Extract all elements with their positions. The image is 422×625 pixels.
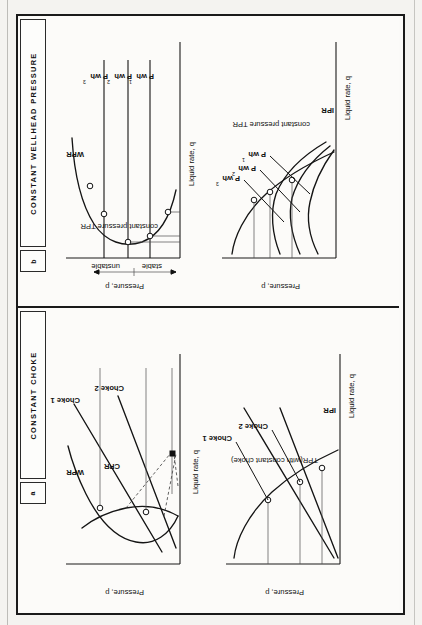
svg-text:3: 3 bbox=[83, 79, 86, 85]
svg-text:P wh: P wh bbox=[248, 150, 266, 159]
label-cpr: CPR bbox=[103, 462, 120, 471]
leader-choke2 bbox=[272, 430, 300, 482]
chart-a-bottom-xlabel: Liquid rate, q bbox=[347, 374, 356, 418]
page-edge-left bbox=[7, 0, 8, 625]
wpr-curve bbox=[68, 446, 178, 543]
dashed-projection-2 bbox=[164, 454, 176, 516]
label-unstable: unstable bbox=[91, 262, 120, 271]
svg-text:P wh: P wh bbox=[90, 72, 108, 81]
panel-a-letter-box: a bbox=[20, 482, 46, 504]
chart-a-bottom-svg: Pressure, p Liquid rate, q Choke 1 Choke… bbox=[218, 324, 394, 604]
label-tpr-constant-choke: TPR(with constant choke) bbox=[231, 456, 318, 465]
chart-b-bottom-svg: Pressure, p Liquid rate, q constant pres… bbox=[214, 30, 390, 298]
scanned-page: CONSTANT WELLHEAD PRESSURE b bbox=[0, 0, 422, 625]
figure-frame: CONSTANT WELLHEAD PRESSURE b bbox=[16, 14, 405, 615]
operating-point-pwh2-low bbox=[147, 233, 153, 239]
chart-a-bottom: Pressure, p Liquid rate, q Choke 1 Choke… bbox=[218, 324, 394, 604]
chart-b-bottom-xlabel: Liquid rate, q bbox=[343, 76, 352, 120]
dashed-projection-3 bbox=[174, 454, 178, 486]
bracket-arrow-lower bbox=[171, 270, 176, 274]
chart-a-top-ylabel: Pressure, p bbox=[105, 588, 144, 597]
chart-b-top-xlabel: Liquid rate, q bbox=[187, 142, 196, 186]
label-ipr: IPR bbox=[323, 406, 336, 415]
panel-a-title: CONSTANT CHOKE bbox=[29, 351, 38, 439]
operating-point-pwh1 bbox=[289, 177, 295, 183]
label-choke1: Choke 1 bbox=[50, 396, 80, 405]
label-choke2: Choke 2 bbox=[238, 422, 268, 431]
label-choke1: Choke 1 bbox=[202, 434, 232, 443]
operating-point-pwh1-high bbox=[87, 183, 93, 189]
panel-b-letter: b bbox=[30, 259, 37, 263]
panel-constant-wellhead-pressure: CONSTANT WELLHEAD PRESSURE b bbox=[18, 16, 399, 308]
chart-b-bottom: Pressure, p Liquid rate, q constant pres… bbox=[214, 30, 390, 298]
svg-text:P wh: P wh bbox=[136, 72, 154, 81]
operating-point-choke1 bbox=[97, 505, 103, 511]
svg-text:P wh: P wh bbox=[222, 174, 240, 183]
panel-b-title: CONSTANT WELLHEAD PRESSURE bbox=[29, 52, 38, 214]
chart-a-bottom-ylabel: Pressure, p bbox=[265, 588, 304, 597]
panel-a-header: CONSTANT CHOKE bbox=[20, 311, 46, 479]
leader-pwh1 bbox=[270, 156, 310, 194]
label-pwh2: P wh 2 bbox=[232, 164, 256, 177]
chart-b-top: Pressure, p Liquid rate, q stable unstab… bbox=[58, 30, 208, 298]
panel-a-letter: a bbox=[30, 491, 37, 495]
svg-text:2: 2 bbox=[232, 171, 235, 177]
dashed-projection-1 bbox=[126, 454, 170, 508]
label-choke2: Choke 2 bbox=[94, 384, 124, 393]
chart-a-top-xlabel: Liquid rate, q bbox=[191, 450, 200, 494]
cpr-line-choke2 bbox=[118, 396, 176, 548]
label-stable: stable bbox=[142, 262, 162, 271]
projection-marker bbox=[170, 451, 175, 456]
tpr-curve-pwh3 bbox=[273, 142, 326, 254]
svg-text:3: 3 bbox=[216, 181, 219, 187]
label-pwh1: P wh 1 bbox=[242, 150, 266, 163]
operating-point-pwh3 bbox=[251, 197, 257, 203]
operating-point-pwh3 bbox=[125, 239, 131, 245]
label-ipr: IPR bbox=[321, 106, 334, 115]
label-constant-pressure-tpr: constant pressure TPR bbox=[80, 222, 158, 231]
chart-a-top-xlabel-holder: Liquid rate, q bbox=[186, 404, 206, 604]
svg-text:P wh: P wh bbox=[238, 164, 256, 173]
operating-point-choke2 bbox=[143, 509, 149, 515]
tpr-curve-pwh1 bbox=[308, 150, 334, 254]
operating-point-pwh2 bbox=[267, 189, 273, 195]
label-constant-pressure-tpr: constant pressure TPR bbox=[232, 120, 310, 129]
label-wpr: WPR bbox=[66, 150, 84, 159]
chart-b-top-svg: Pressure, p Liquid rate, q stable unstab… bbox=[58, 30, 208, 298]
label-pwh3: P wh 3 bbox=[216, 174, 240, 187]
operating-point-pwh2-high bbox=[101, 211, 107, 217]
chart-b-top-ylabel: Pressure, p bbox=[105, 282, 144, 291]
panel-b-letter-box: b bbox=[20, 250, 46, 272]
chart-b-bottom-ylabel: Pressure, p bbox=[261, 282, 300, 291]
operating-point-extra bbox=[319, 465, 325, 471]
leader-choke1 bbox=[236, 442, 268, 500]
label-wpr: WPR bbox=[66, 468, 84, 477]
svg-text:1: 1 bbox=[242, 157, 245, 163]
panel-b-header: CONSTANT WELLHEAD PRESSURE bbox=[20, 19, 46, 247]
leader-pwh3 bbox=[244, 180, 284, 222]
svg-text:P wh: P wh bbox=[114, 72, 132, 81]
operating-point-pwh1-low bbox=[165, 209, 171, 215]
page-edge-right bbox=[414, 0, 415, 625]
panel-constant-choke: CONSTANT CHOKE a bbox=[18, 308, 399, 611]
